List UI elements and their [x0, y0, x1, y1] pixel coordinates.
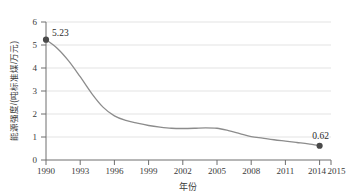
xtick-label-2008: 2008	[242, 166, 261, 176]
xtick-label-1999: 1999	[140, 166, 159, 176]
x-axis-title: 年份	[179, 181, 197, 192]
ytick-label-0: 0	[33, 155, 38, 165]
xtick-label-2015: 2015	[328, 166, 347, 176]
y-axis-title: 能源强度/(吨标准煤/万元)	[9, 41, 19, 142]
chart-svg: 0 1 2 3 4 5 6 1990 1993 1996 1999	[0, 0, 348, 196]
xtick-label-1996: 1996	[105, 166, 124, 176]
xtick-label-2005: 2005	[208, 166, 227, 176]
data-label-first-value: 5.23	[52, 28, 69, 38]
data-point-marker-1990	[43, 37, 49, 43]
ytick-label-3: 3	[33, 86, 38, 96]
xtick-label-1990: 1990	[37, 166, 56, 176]
xtick-label-2014: 2014	[308, 166, 327, 176]
line-chart-figure: 0 1 2 3 4 5 6 1990 1993 1996 1999	[0, 0, 348, 196]
ytick-label-2: 2	[33, 109, 38, 119]
xtick-label-2011: 2011	[277, 166, 295, 176]
ytick-label-5: 5	[33, 40, 38, 50]
ytick-label-4: 4	[33, 63, 38, 73]
data-point-marker-2014	[317, 143, 323, 149]
ytick-label-6: 6	[33, 17, 38, 27]
data-label-last-value: 0.62	[312, 131, 329, 141]
xtick-label-1993: 1993	[71, 166, 90, 176]
ytick-label-1: 1	[33, 132, 38, 142]
xtick-label-2002: 2002	[174, 166, 192, 176]
